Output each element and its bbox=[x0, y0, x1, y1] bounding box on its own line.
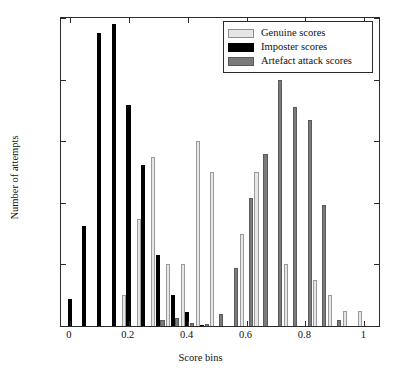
y-tick-mark bbox=[374, 203, 379, 204]
y-tick-mark bbox=[61, 326, 66, 327]
y-axis-title: Number of attempts bbox=[9, 108, 20, 248]
y-tick-mark bbox=[61, 80, 66, 81]
bar-imposter-0.1 bbox=[97, 33, 101, 326]
bar-imposter-0.35 bbox=[171, 295, 175, 326]
bar-genuine-0.65 bbox=[254, 172, 258, 326]
bar-genuine-0.95 bbox=[343, 311, 347, 326]
y-tick-mark bbox=[374, 141, 379, 142]
bar-genuine-0.4 bbox=[181, 264, 185, 326]
x-tick-mark bbox=[70, 18, 71, 23]
bar-artefact-0.75 bbox=[293, 107, 297, 326]
legend-label-imposter: Imposter scores bbox=[261, 42, 327, 53]
x-tick-mark bbox=[129, 18, 130, 23]
bar-genuine-0.85 bbox=[313, 280, 317, 326]
y-tick-mark bbox=[374, 80, 379, 81]
legend-swatch-genuine-icon bbox=[228, 29, 254, 38]
bar-imposter-0.25 bbox=[141, 165, 145, 326]
x-tick-label: 0.8 bbox=[298, 330, 311, 341]
bar-genuine-0.35 bbox=[166, 264, 170, 326]
legend: Genuine scores Imposter scores Artefact … bbox=[223, 21, 373, 73]
bar-imposter-0.45 bbox=[200, 325, 204, 326]
bar-genuine-0.5 bbox=[210, 172, 214, 326]
bar-genuine-0.6 bbox=[240, 234, 244, 326]
x-tick-mark bbox=[129, 321, 130, 326]
x-tick-mark bbox=[364, 321, 365, 326]
bar-artefact-0.85 bbox=[322, 205, 326, 326]
x-tick-label: 0.2 bbox=[121, 330, 134, 341]
bar-artefact-0.4 bbox=[190, 323, 194, 326]
bar-genuine-0.25 bbox=[137, 219, 141, 326]
bar-artefact-0.55 bbox=[234, 268, 238, 326]
x-axis-title: Score bins bbox=[0, 352, 401, 363]
legend-label-genuine: Genuine scores bbox=[261, 28, 325, 39]
x-tick-label: 1 bbox=[361, 330, 366, 341]
bar-imposter-0.3 bbox=[156, 255, 160, 326]
y-tick-mark bbox=[374, 18, 379, 19]
legend-item-genuine: Genuine scores bbox=[228, 26, 367, 40]
x-tick-label: 0.4 bbox=[180, 330, 193, 341]
bar-genuine-0.9 bbox=[328, 295, 332, 326]
histogram-figure: 00.050.10.150.20.2500.20.40.60.81 Number… bbox=[0, 0, 401, 382]
bar-artefact-0.45 bbox=[205, 324, 209, 326]
bar-genuine-0.3 bbox=[151, 157, 155, 326]
bar-imposter-0.15 bbox=[112, 24, 116, 326]
bar-artefact-0.8 bbox=[308, 120, 312, 326]
legend-swatch-imposter-icon bbox=[228, 43, 254, 52]
bar-artefact-0.9 bbox=[337, 320, 341, 326]
bar-imposter-0.2 bbox=[126, 105, 130, 326]
y-tick-mark bbox=[374, 326, 379, 327]
bar-artefact-0.65 bbox=[263, 154, 267, 326]
bar-genuine-0.2 bbox=[122, 295, 126, 326]
x-tick-mark bbox=[188, 321, 189, 326]
x-tick-mark bbox=[70, 321, 71, 326]
y-tick-mark bbox=[61, 264, 66, 265]
x-tick-label: 0.6 bbox=[239, 330, 252, 341]
y-tick-mark bbox=[61, 203, 66, 204]
x-tick-label: 0 bbox=[66, 330, 71, 341]
bar-genuine-0.75 bbox=[284, 264, 288, 326]
x-tick-mark bbox=[305, 321, 306, 326]
legend-item-imposter: Imposter scores bbox=[228, 40, 367, 54]
bar-artefact-0.5 bbox=[219, 314, 223, 326]
bar-artefact-0.3 bbox=[160, 320, 164, 326]
legend-item-artefact: Artefact attack scores bbox=[228, 54, 367, 68]
legend-swatch-artefact-icon bbox=[228, 57, 254, 66]
x-tick-mark bbox=[188, 18, 189, 23]
bar-genuine-0.45 bbox=[196, 141, 200, 326]
y-tick-mark bbox=[374, 264, 379, 265]
y-tick-mark bbox=[61, 18, 66, 19]
bar-artefact-0.6 bbox=[249, 198, 253, 326]
bar-genuine-1 bbox=[358, 311, 362, 326]
x-tick-mark bbox=[247, 321, 248, 326]
legend-label-artefact: Artefact attack scores bbox=[261, 56, 352, 67]
bar-artefact-0.35 bbox=[175, 318, 179, 326]
bar-artefact-0.7 bbox=[278, 80, 282, 326]
y-tick-mark bbox=[61, 141, 66, 142]
bar-imposter-0.05 bbox=[82, 226, 86, 326]
